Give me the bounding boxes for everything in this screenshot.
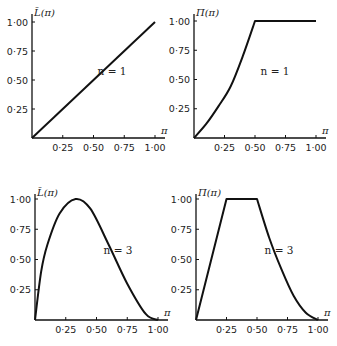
x-tick-label: 0·75 [114, 142, 135, 153]
chart-top-left: 0·250·250·500·500·750·751·001·00L̄(π)πn … [7, 7, 168, 153]
x-tick-label: 0·75 [275, 142, 296, 153]
x-tick-label: 0·25 [52, 142, 73, 153]
data-curve [194, 21, 316, 138]
x-tick-label: 0·50 [246, 324, 267, 335]
y-tick-label: 1·00 [7, 17, 28, 28]
x-axis-label: π [321, 125, 329, 136]
y-tick-label: 0·75 [7, 46, 28, 57]
x-tick-label: 0·50 [244, 142, 265, 153]
y-tick-label: 0·50 [169, 74, 190, 85]
data-curve [35, 199, 158, 320]
x-tick-label: 0·25 [216, 324, 237, 335]
y-axis-label: Π(π) [195, 7, 219, 18]
x-tick-label: 1·00 [144, 142, 165, 153]
y-tick-label: 0·25 [10, 284, 31, 295]
x-axis-label: π [323, 307, 331, 318]
y-tick-label: 1·00 [10, 194, 31, 205]
y-axis-label: L̄(π) [36, 187, 58, 198]
x-tick-label: 1·00 [305, 142, 326, 153]
x-tick-label: 0·50 [83, 142, 104, 153]
y-tick-label: 1·00 [171, 194, 192, 205]
y-tick-label: 0·50 [10, 254, 31, 265]
x-axis-label: π [160, 125, 168, 136]
figure: 0·250·250·500·500·750·751·001·00L̄(π)πn … [0, 0, 337, 346]
chart-top-right: 0·250·250·500·500·750·751·001·00Π(π)πn =… [169, 7, 329, 153]
data-curve [196, 199, 318, 320]
x-axis-label: π [163, 307, 171, 318]
x-tick-label: 1·00 [307, 324, 328, 335]
y-axis-label: L̄(π) [33, 7, 55, 18]
x-tick-label: 0·25 [214, 142, 235, 153]
y-tick-label: 0·75 [171, 224, 192, 235]
y-tick-label: 0·25 [7, 104, 28, 115]
chart-bottom-left: 0·250·250·500·500·750·751·001·00L̄(π)πn … [10, 187, 171, 335]
series-annotation: n = 3 [104, 244, 133, 256]
series-annotation: n = 3 [265, 244, 294, 256]
x-tick-label: 1·00 [147, 324, 168, 335]
series-annotation: n = 1 [261, 65, 290, 77]
y-tick-label: 1·00 [169, 16, 190, 27]
x-tick-label: 0·25 [55, 324, 76, 335]
y-tick-label: 0·50 [7, 75, 28, 86]
y-tick-label: 0·25 [171, 284, 192, 295]
y-axis-label: Π(π) [197, 187, 221, 198]
data-curve [32, 22, 155, 138]
x-tick-label: 0·75 [277, 324, 298, 335]
y-tick-label: 0·25 [169, 103, 190, 114]
y-tick-label: 0·75 [169, 45, 190, 56]
chart-bottom-right: 0·250·250·500·500·750·751·001·00Π(π)πn =… [171, 187, 331, 335]
x-tick-label: 0·50 [86, 324, 107, 335]
y-tick-label: 0·50 [171, 254, 192, 265]
y-tick-label: 0·75 [10, 224, 31, 235]
x-tick-label: 0·75 [117, 324, 138, 335]
